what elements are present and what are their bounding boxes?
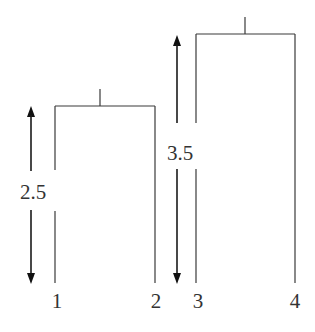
height-label-2-5: 2.5 bbox=[20, 180, 46, 204]
arrow-down-icon bbox=[27, 273, 35, 284]
height-label-3-5: 3.5 bbox=[167, 141, 193, 165]
arrow-down-icon bbox=[173, 273, 181, 284]
leaf-label-4: 4 bbox=[290, 289, 301, 313]
leaf-label-2: 2 bbox=[151, 289, 162, 313]
leaf-label-3: 3 bbox=[193, 289, 204, 313]
cluster-1-2 bbox=[55, 89, 155, 283]
cluster-3-4 bbox=[196, 17, 295, 283]
leaf-label-1: 1 bbox=[52, 289, 63, 313]
dendrogram-diagram: 2.5 3.5 1 2 3 4 bbox=[0, 0, 315, 332]
